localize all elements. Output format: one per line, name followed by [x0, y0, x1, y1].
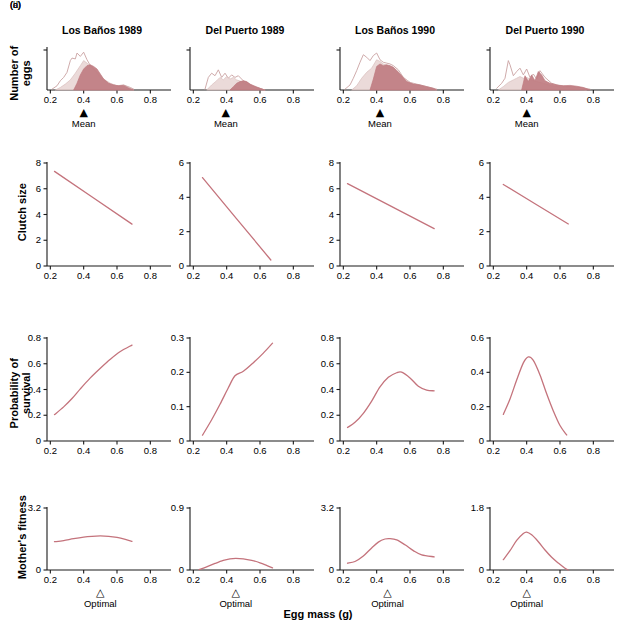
ytick-label: 0.1	[156, 401, 184, 412]
axes-c1	[44, 337, 172, 445]
optimal-marker-icon: △	[224, 587, 248, 598]
ytick-label: 0.4	[13, 384, 41, 395]
ytick-label: 4	[306, 209, 334, 220]
xtick-label: 0.6	[546, 445, 574, 456]
series-survival-curve	[503, 357, 566, 435]
ytick-label: 2	[456, 226, 484, 237]
mean-marker-icon: ▲	[368, 107, 392, 118]
xtick-label: 0.2	[36, 94, 64, 105]
figure-panel-grid: (a)(b)(c)(d)Number of eggsClutch sizePro…	[0, 0, 636, 631]
xtick-label: 0.6	[246, 270, 274, 281]
xtick-label: 0.8	[579, 94, 607, 105]
xtick-label: 0.4	[213, 574, 241, 585]
figure-xaxis-title: Egg mass (g)	[218, 608, 418, 620]
ytick-label: 0	[306, 564, 334, 575]
series-fitness-curve	[348, 539, 435, 564]
xtick-label: 0.8	[429, 574, 457, 585]
axes-d4	[487, 507, 615, 574]
xtick-label: 0.6	[396, 574, 424, 585]
ytick-label: 2	[306, 234, 334, 245]
mean-marker-icon: ▲	[72, 107, 96, 118]
ytick-label: 4	[456, 191, 484, 202]
xtick-label: 0.8	[579, 270, 607, 281]
ytick-label: 3.2	[306, 502, 334, 513]
ytick-label: 0	[156, 260, 184, 271]
xtick-label: 0.2	[329, 94, 357, 105]
xtick-label: 0.4	[213, 270, 241, 281]
series-clutch-regression	[348, 184, 435, 229]
ytick-label: 6	[306, 183, 334, 194]
xtick-label: 0.8	[429, 445, 457, 456]
ytick-label: 0.2	[156, 366, 184, 377]
xtick-label: 0.4	[363, 270, 391, 281]
xtick-label: 0.2	[179, 574, 207, 585]
ytick-label: 8	[306, 157, 334, 168]
ytick-label: 0.2	[456, 401, 484, 412]
series-survival-curve	[203, 343, 273, 435]
axes-c2	[187, 337, 315, 445]
axes-d2	[187, 507, 315, 574]
ytick-label: 0.6	[306, 358, 334, 369]
xtick-label: 0.2	[36, 574, 64, 585]
series-clutch-regression	[203, 178, 271, 260]
optimal-label: Optimal	[497, 598, 557, 609]
xtick-label: 0.4	[213, 94, 241, 105]
xtick-label: 0.2	[36, 270, 64, 281]
chart-panel-c2	[160, 326, 320, 459]
panel-title-col-4: Del Puerto 1990	[460, 24, 630, 36]
xtick-label: 0.4	[363, 574, 391, 585]
ytick-label: 0	[306, 260, 334, 271]
optimal-label: Optimal	[70, 598, 130, 609]
xtick-label: 0.6	[246, 94, 274, 105]
panel-title-col-2: Del Puerto 1989	[160, 24, 330, 36]
ytick-label: 0	[456, 564, 484, 575]
mean-marker-icon: ▲	[214, 107, 238, 118]
optimal-marker-icon: △	[376, 587, 400, 598]
ytick-label: 0.4	[456, 366, 484, 377]
xtick-label: 0.6	[546, 94, 574, 105]
axes-b4	[487, 162, 615, 270]
axes-b3	[337, 162, 465, 270]
series-clutch-regression	[503, 184, 568, 223]
xtick-label: 0.4	[513, 445, 541, 456]
series-clutch-regression	[55, 171, 133, 224]
ytick-label: 0	[13, 435, 41, 446]
ytick-label: 6	[13, 183, 41, 194]
xtick-label: 0.2	[329, 270, 357, 281]
chart-panel-b4	[460, 151, 620, 284]
row-tag-4: (d)	[10, 0, 21, 10]
xtick-label: 0.2	[479, 94, 507, 105]
xtick-label: 0.8	[579, 445, 607, 456]
mean-label: Mean	[350, 118, 410, 129]
ytick-label: 8	[13, 157, 41, 168]
xtick-label: 0.4	[513, 574, 541, 585]
ytick-label: 3.2	[13, 502, 41, 513]
mean-label: Mean	[497, 118, 557, 129]
xtick-label: 0.4	[513, 94, 541, 105]
chart-panel-c3	[310, 326, 470, 459]
optimal-marker-icon: △	[515, 587, 539, 598]
axes-c4	[487, 337, 615, 445]
axes-b2	[187, 162, 315, 270]
series-fitness-curve	[503, 532, 568, 570]
ytick-label: 0	[156, 435, 184, 446]
xtick-label: 0.8	[579, 574, 607, 585]
chart-panel-c1	[17, 326, 177, 459]
ytick-label: 0.6	[456, 332, 484, 343]
xtick-label: 0.6	[103, 270, 131, 281]
xtick-label: 0.6	[246, 445, 274, 456]
xtick-label: 0.2	[179, 94, 207, 105]
xtick-label: 0.4	[70, 445, 98, 456]
xtick-label: 0.8	[279, 270, 307, 281]
series-fitness-curve	[55, 536, 133, 542]
xtick-label: 0.2	[36, 445, 64, 456]
mean-label: Mean	[54, 118, 114, 129]
xtick-label: 0.4	[70, 94, 98, 105]
axes-d3	[337, 507, 465, 574]
ytick-label: 0	[456, 260, 484, 271]
xtick-label: 0.6	[103, 445, 131, 456]
xtick-label: 0.4	[213, 445, 241, 456]
chart-panel-b1	[17, 151, 177, 284]
xtick-label: 0.4	[70, 270, 98, 281]
mean-marker-icon: ▲	[515, 107, 539, 118]
